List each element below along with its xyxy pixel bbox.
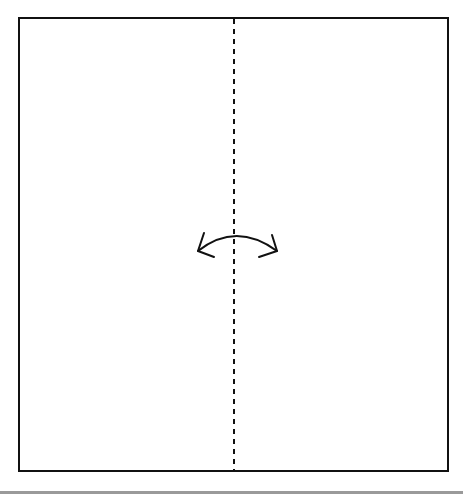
fold-diagram: [0, 0, 463, 501]
bottom-divider: [0, 491, 463, 494]
